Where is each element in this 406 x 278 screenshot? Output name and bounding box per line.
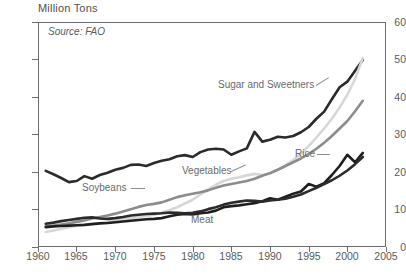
series-label-soybeans: Soybeans [82,182,126,193]
y-tick-40: 40 [380,91,406,103]
leader-rice [317,154,330,155]
y-tick-mark-30 [32,134,38,135]
series-label-meat: Meat [191,214,213,225]
y-tick-mark-60 [32,22,38,23]
y-tick-mark-20 [32,172,38,173]
y-axis-title: Million Tons [38,2,98,14]
x-tick-1985: 1985 [211,250,251,262]
y-tick-30: 30 [380,128,406,140]
y-tick-mark-50 [32,59,38,60]
x-tick-1960: 1960 [18,250,58,262]
x-tick-1990: 1990 [250,250,290,262]
x-tick-1980: 1980 [173,250,213,262]
y-tick-mark-10 [32,209,38,210]
x-tick-1970: 1970 [95,250,135,262]
y-tick-mark-40 [32,97,38,98]
series-label-rice: Rice [295,148,315,159]
x-tick-1965: 1965 [56,250,96,262]
y-tick-20: 20 [380,166,406,178]
y-tick-10: 10 [380,203,406,215]
leader-soybeans [131,188,145,189]
series-label-sugar: Sugar and Sweetners [218,79,314,90]
x-tick-1975: 1975 [134,250,174,262]
y-tick-60: 60 [380,16,406,28]
x-tick-2000: 2000 [327,250,367,262]
chart-container: Million Tons Source: FAO 60 50 40 30 20 … [0,0,406,278]
x-tick-2005: 2005 [366,250,406,262]
series-line-sugar-and-sweetners [46,60,363,182]
series-label-vegetables: Vegetables [182,165,232,176]
x-tick-1995: 1995 [289,250,329,262]
y-tick-50: 50 [380,53,406,65]
